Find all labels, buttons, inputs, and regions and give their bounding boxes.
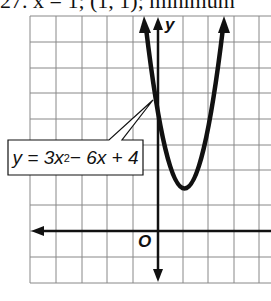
origin-label: O [138,232,151,252]
eq-prefix: y = 3x [12,147,63,169]
y-axis-down-arrow-icon [153,269,163,282]
eq-suffix: − 6x + 4 [70,147,139,169]
curve-right-arrow-icon [218,16,230,33]
equation-label: y = 3x2 − 6x + 4 [8,140,143,175]
y-axis-label: y [165,15,174,35]
y-axis-up-arrow-icon [153,17,163,30]
curve-left-arrow-icon [139,16,151,33]
x-axis-arrow-icon [31,226,44,236]
